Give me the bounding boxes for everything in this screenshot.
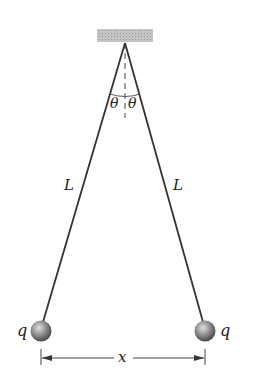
theta-right-label: θ <box>128 95 137 111</box>
ceiling-support <box>97 29 153 42</box>
separation-label: x <box>118 348 127 366</box>
charge-left-label: q <box>17 321 27 340</box>
theta-left-label: θ <box>110 95 119 111</box>
sphere-left <box>31 321 52 342</box>
length-left-label: L <box>63 176 74 194</box>
string-right <box>125 43 203 322</box>
string-left <box>43 43 125 322</box>
charge-right-label: q <box>220 321 230 340</box>
length-right-label: L <box>172 176 183 194</box>
sphere-right <box>195 321 216 342</box>
pendulum-diagram: θ θ L L q q x <box>0 0 253 391</box>
